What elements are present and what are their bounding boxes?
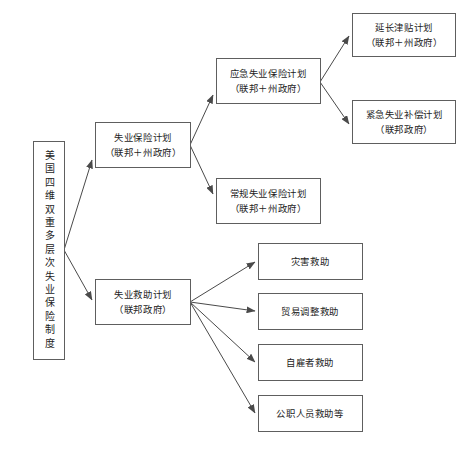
node-root-label-holder: 美国四维双重多层次失业保险制度: [33, 150, 64, 355]
edge-ua-plan-to-disaster-aid: [190, 262, 255, 302]
node-emergency-ui-line2: （联邦＋州政府）: [230, 83, 307, 94]
node-disaster-aid[interactable]: 灾害救助: [259, 244, 363, 280]
flowchart-svg: 失业保险计划 （联邦＋州政府） 失业救助计划 （联邦政府） 应急失业保险计划 （…: [0, 0, 464, 450]
edge-ui-plan-to-emergency-ui: [190, 95, 213, 145]
node-public-servant-aid-label: 公职人员救助等: [276, 408, 343, 419]
node-ui-plan-line2: （联邦＋州政府）: [105, 147, 182, 158]
node-regular-ui-line1: 常规失业保险计划: [230, 188, 307, 199]
edge-emergency-ui-to-emergency-comp: [320, 82, 349, 124]
node-emergency-ui-rect: [217, 59, 321, 104]
node-emergency-ui-line1: 应急失业保险计划: [230, 68, 307, 79]
node-extended-benefit-rect: [353, 14, 456, 57]
node-root-label: 美国四维双重多层次失业保险制度: [41, 150, 56, 351]
node-regular-ui[interactable]: 常规失业保险计划 （联邦＋州政府）: [217, 179, 321, 224]
node-ua-plan-line1: 失业救助计划: [114, 289, 172, 300]
node-ua-plan-line2: （联邦政府）: [114, 304, 172, 315]
node-emergency-comp-line1: 紧急失业补偿计划: [366, 109, 443, 120]
edge-ua-plan-to-self-employed-aid: [190, 302, 255, 362]
node-extended-benefit-line2: （联邦＋州政府）: [366, 37, 443, 48]
edge-ua-plan-to-trade-adjustment-aid: [190, 302, 255, 311]
node-ua-plan-rect: [96, 280, 191, 325]
node-trade-adjustment-aid[interactable]: 贸易调整救助: [259, 294, 363, 330]
node-emergency-comp-rect: [353, 101, 456, 144]
node-self-employed-aid[interactable]: 自雇者救助: [259, 345, 363, 381]
node-ui-plan-rect: [96, 123, 191, 168]
node-extended-benefit-line1: 延长津贴计划: [375, 22, 433, 33]
edge-root-to-ui-plan: [64, 160, 92, 250]
node-self-employed-aid-label: 自雇者救助: [286, 357, 334, 368]
node-ui-plan[interactable]: 失业保险计划 （联邦＋州政府）: [96, 123, 191, 168]
node-regular-ui-rect: [217, 179, 321, 224]
node-extended-benefit[interactable]: 延长津贴计划 （联邦＋州政府）: [353, 14, 456, 57]
edge-ua-plan-to-public-servant-aid: [190, 302, 255, 413]
edge-root-to-ua-plan: [64, 250, 92, 300]
node-emergency-comp-line2: （联邦政府）: [375, 124, 433, 135]
node-ui-plan-line1: 失业保险计划: [114, 132, 172, 143]
edge-ui-plan-to-regular-ui: [190, 145, 213, 194]
edge-emergency-ui-to-extended-benefit: [320, 36, 349, 82]
node-emergency-comp[interactable]: 紧急失业补偿计划 （联邦政府）: [353, 101, 456, 144]
node-disaster-aid-label: 灾害救助: [291, 256, 329, 267]
node-trade-adjustment-aid-label: 贸易调整救助: [281, 306, 339, 317]
diagram-canvas: 失业保险计划 （联邦＋州政府） 失业救助计划 （联邦政府） 应急失业保险计划 （…: [0, 0, 464, 450]
node-ua-plan[interactable]: 失业救助计划 （联邦政府）: [96, 280, 191, 325]
node-regular-ui-line2: （联邦＋州政府）: [230, 203, 307, 214]
node-emergency-ui[interactable]: 应急失业保险计划 （联邦＋州政府）: [217, 59, 321, 104]
node-public-servant-aid[interactable]: 公职人员救助等: [259, 396, 363, 432]
